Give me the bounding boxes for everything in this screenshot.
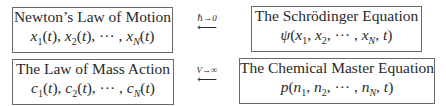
chemical-master-formula: p(n1, n2, ··· , nN, t) xyxy=(281,77,394,102)
volume-limit-arrow: V→∞ ⟵ xyxy=(190,65,224,85)
newtons-law-title: Newton’s Law of Motion xyxy=(14,8,171,26)
schrodinger-title: The Schrödinger Equation xyxy=(255,7,419,25)
left-arrow-icon: ⟵ xyxy=(190,75,224,85)
schrodinger-formula: ψ(x1, x2, ··· , xN, t) xyxy=(280,25,392,50)
left-arrow-icon: ⟵ xyxy=(190,23,224,33)
mass-action-box: The Law of Mass Action c1(t), c2(t), ···… xyxy=(12,59,174,105)
chemical-master-box: The Chemical Master Equation p(n1, n2, ·… xyxy=(239,58,435,104)
schrodinger-box: The Schrödinger Equation ψ(x1, x2, ··· ,… xyxy=(251,6,422,52)
hbar-limit-arrow: ℏ→0 ⟵ xyxy=(190,13,224,33)
chemical-master-title: The Chemical Master Equation xyxy=(240,59,434,77)
newtons-law-formula: x1(t), x2(t), ··· , xN(t) xyxy=(31,26,155,51)
newtons-law-box: Newton’s Law of Motion x1(t), x2(t), ···… xyxy=(12,7,173,53)
mass-action-formula: c1(t), c2(t), ··· , cN(t) xyxy=(31,78,155,103)
mass-action-title: The Law of Mass Action xyxy=(16,60,170,78)
